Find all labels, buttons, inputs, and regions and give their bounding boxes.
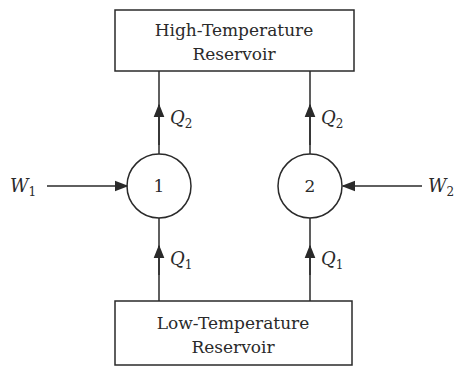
device-2-label: 2 <box>305 176 316 196</box>
device-1-label: 1 <box>154 176 165 196</box>
device-1: 1 Q2 Q1 W1 <box>10 71 192 301</box>
high-reservoir-line1: High-Temperature <box>155 20 314 40</box>
reservoir-diagram: High-Temperature Reservoir Low-Temperatu… <box>0 0 460 380</box>
w1-label: W1 <box>10 175 36 199</box>
low-reservoir-line1: Low-Temperature <box>157 313 310 333</box>
low-temperature-reservoir: Low-Temperature Reservoir <box>115 301 352 365</box>
high-temperature-reservoir: High-Temperature Reservoir <box>115 10 354 71</box>
w2-label: W2 <box>428 175 454 199</box>
q1-label-2: Q1 <box>321 248 343 272</box>
q2-label-2: Q2 <box>321 107 343 131</box>
q1-label-1: Q1 <box>170 248 192 272</box>
high-reservoir-line2: Reservoir <box>192 44 276 64</box>
low-reservoir-line2: Reservoir <box>191 337 275 357</box>
q2-label-1: Q2 <box>170 107 192 131</box>
device-2: 2 Q2 Q1 W2 <box>278 71 454 301</box>
